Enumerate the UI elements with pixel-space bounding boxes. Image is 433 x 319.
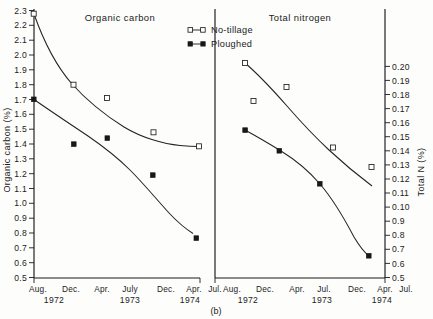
left-ytick-8: 1.3 xyxy=(14,154,27,164)
data-point-marker xyxy=(277,149,282,154)
left-y-ticks: 0.5 0.6 0.7 0.8 0.9 1.0 1.1 1.2 1.3 1.4 xyxy=(14,6,34,283)
right-ytick-13: 0.18 xyxy=(392,90,410,100)
data-point-marker xyxy=(194,236,199,241)
right-y-ticks: 0.5 0.6 0.7 0.8 0.9 0.10 0.11 0.12 0.13 … xyxy=(385,62,410,283)
left-ytick-11: 1.6 xyxy=(14,109,27,119)
right-year-labels: 1972 1973 1974 xyxy=(238,295,392,305)
left-no-tillage-markers xyxy=(31,11,201,149)
right-year-0: 1972 xyxy=(238,295,258,305)
right-year-2: 1974 xyxy=(372,295,392,305)
left-xtick-4: Dec. xyxy=(157,284,175,294)
right-ytick-14: 0.19 xyxy=(392,76,410,86)
right-panel: 0.5 0.6 0.7 0.8 0.9 0.10 0.11 0.12 0.13 … xyxy=(215,9,426,305)
data-point-marker xyxy=(72,142,77,147)
data-point-marker xyxy=(105,136,110,141)
right-ytick-9: 0.14 xyxy=(392,146,410,156)
data-point-marker xyxy=(105,96,110,101)
left-ytick-0: 0.5 xyxy=(14,273,27,283)
left-xtick-1: Dec. xyxy=(62,284,80,294)
figure-container: 0.5 0.6 0.7 0.8 0.9 1.0 1.1 1.2 1.3 1.4 xyxy=(0,0,433,319)
data-point-marker xyxy=(331,145,336,150)
left-year-2: 1974 xyxy=(180,295,200,305)
right-xtick-2: Apr. xyxy=(289,284,305,294)
left-xtick-3: July xyxy=(122,284,138,294)
right-ytick-15: 0.20 xyxy=(392,62,410,72)
figure-label: (b) xyxy=(211,306,222,316)
left-x-ticks xyxy=(34,278,200,283)
left-xtick-2: Apr. xyxy=(94,284,110,294)
data-point-marker xyxy=(151,130,156,135)
data-point-marker xyxy=(31,11,36,16)
data-point-marker xyxy=(367,254,372,259)
left-ytick-18: 2.3 xyxy=(14,6,27,16)
right-year-1: 1973 xyxy=(312,295,332,305)
left-xtick-6: Jul. xyxy=(208,284,222,294)
left-ytick-2: 0.7 xyxy=(14,243,27,253)
left-ytick-7: 1.2 xyxy=(14,169,27,179)
legend-label-no-tillage: No-tillage xyxy=(211,25,253,35)
right-no-tillage-curve xyxy=(245,63,372,186)
left-ytick-12: 1.7 xyxy=(14,95,27,105)
data-point-marker xyxy=(32,97,37,102)
data-point-marker xyxy=(151,173,156,178)
legend-item-ploughed: Ploughed xyxy=(188,39,252,49)
right-xtick-0: Aug. xyxy=(223,284,241,294)
filled-square-marker xyxy=(201,42,205,46)
right-ytick-11: 0.16 xyxy=(392,118,410,128)
right-xtick-4: Dec. xyxy=(348,284,366,294)
left-ytick-15: 2.0 xyxy=(14,50,27,60)
left-year-0: 1972 xyxy=(44,295,64,305)
right-panel-title: Total nitrogen xyxy=(269,12,332,23)
right-ytick-12: 0.17 xyxy=(392,104,410,114)
legend-item-no-tillage: No-tillage xyxy=(188,25,253,35)
right-no-tillage-markers xyxy=(243,61,375,170)
left-ytick-13: 1.8 xyxy=(14,80,27,90)
left-ytick-9: 1.4 xyxy=(14,139,27,149)
right-y-axis-title: Total N (%) xyxy=(416,148,426,197)
data-point-marker xyxy=(197,144,202,149)
right-xtick-6: Jul. xyxy=(399,284,413,294)
data-point-marker xyxy=(369,165,374,170)
left-ytick-3: 0.8 xyxy=(14,228,27,238)
filled-square-marker xyxy=(188,42,192,46)
left-year-1: 1973 xyxy=(120,295,140,305)
right-ytick-2: 0.7 xyxy=(392,244,405,254)
left-ytick-5: 1.0 xyxy=(14,198,27,208)
data-point-marker xyxy=(243,61,248,66)
right-x-labels: Aug. Dec. Apr. Jul. Dec. Apr. Jul. xyxy=(223,284,413,294)
right-ytick-3: 0.8 xyxy=(392,230,405,240)
right-xtick-5: Apr. xyxy=(377,284,393,294)
left-ytick-14: 1.9 xyxy=(14,65,27,75)
left-ytick-10: 1.5 xyxy=(14,124,27,134)
right-ytick-1: 0.6 xyxy=(392,259,405,269)
right-ytick-8: 0.13 xyxy=(392,160,410,170)
left-ytick-16: 2.1 xyxy=(14,35,27,45)
right-ploughed-curve xyxy=(245,130,369,256)
right-ytick-5: 0.10 xyxy=(392,202,410,212)
left-ytick-1: 0.6 xyxy=(14,258,27,268)
left-no-tillage-curve xyxy=(34,14,199,146)
left-ytick-4: 0.9 xyxy=(14,213,27,223)
data-point-marker xyxy=(318,182,323,187)
right-x-ticks xyxy=(215,278,385,283)
left-panel-title: Organic carbon xyxy=(85,12,155,23)
data-point-marker xyxy=(243,128,248,133)
right-ytick-0: 0.5 xyxy=(392,273,405,283)
open-square-marker xyxy=(188,28,193,33)
legend: No-tillage Ploughed xyxy=(188,25,253,49)
left-panel: 0.5 0.6 0.7 0.8 0.9 1.0 1.1 1.2 1.3 1.4 xyxy=(2,6,222,305)
open-square-marker xyxy=(201,28,206,33)
right-ytick-6: 0.11 xyxy=(392,188,409,198)
left-xtick-0: Aug. xyxy=(29,284,47,294)
right-xtick-3: Jul. xyxy=(317,284,331,294)
left-ploughed-markers xyxy=(32,97,199,240)
legend-label-ploughed: Ploughed xyxy=(211,39,252,49)
right-ytick-4: 0.9 xyxy=(392,216,405,226)
left-year-labels: 1972 1973 1974 xyxy=(44,295,200,305)
chart-svg: 0.5 0.6 0.7 0.8 0.9 1.0 1.1 1.2 1.3 1.4 xyxy=(0,0,433,319)
left-ytick-17: 2.2 xyxy=(14,20,27,30)
data-point-marker xyxy=(284,85,289,90)
left-x-labels: Aug. Dec. Apr. July Dec. Apr. Jul. xyxy=(29,284,222,294)
left-xtick-5: Apr. xyxy=(186,284,202,294)
left-y-axis-title: Organic carbon (%) xyxy=(2,107,12,192)
